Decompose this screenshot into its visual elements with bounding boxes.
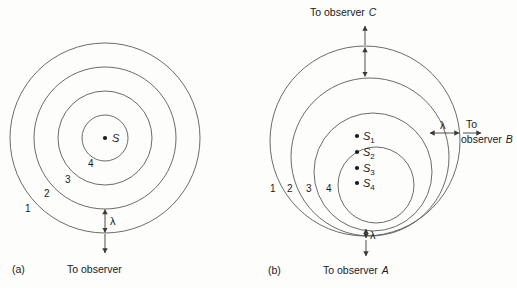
wavefront-label-2-b: 2 bbox=[287, 183, 293, 194]
source-dot-4-b bbox=[355, 181, 359, 185]
observer-label-a: To observer bbox=[67, 263, 122, 275]
wavefront-label-1-a: 1 bbox=[25, 203, 31, 214]
source-label-a: S bbox=[112, 132, 120, 144]
panel-a: S 1 2 3 4 λ To observer (a) bbox=[10, 43, 200, 275]
wavefront-label-1-b: 1 bbox=[270, 183, 276, 194]
wavelength-label-bottom-b: λ bbox=[370, 229, 376, 241]
doppler-diagram: S 1 2 3 4 λ To observer (a) S1 S2 bbox=[0, 0, 517, 288]
panel-caption-a: (a) bbox=[12, 263, 25, 275]
observer-b-label-line2: observerB bbox=[461, 133, 513, 145]
source-label-1-b: S1 bbox=[363, 130, 375, 145]
wavefront-label-2-a: 2 bbox=[44, 188, 50, 199]
source-label-2-b: S2 bbox=[363, 146, 375, 161]
wavefront-label-4-b: 4 bbox=[326, 183, 332, 194]
source-label-4-b: S4 bbox=[363, 177, 375, 192]
observer-b-label-line1: To bbox=[466, 118, 477, 130]
wavefront-label-4-a: 4 bbox=[88, 158, 94, 169]
source-label-3-b: S3 bbox=[363, 162, 375, 177]
observer-a-label: To observerA bbox=[323, 264, 389, 276]
source-dot-1-b bbox=[355, 134, 359, 138]
panel-b: S1 S2 S3 S4 1 2 3 4 To observerC λ To ob… bbox=[268, 6, 513, 276]
source-dot-2-b bbox=[355, 150, 359, 154]
panel-caption-b: (b) bbox=[268, 264, 281, 276]
figure-canvas: S 1 2 3 4 λ To observer (a) S1 S2 bbox=[0, 0, 517, 288]
source-dot-a bbox=[103, 136, 107, 140]
source-dot-3-b bbox=[355, 166, 359, 170]
wavelength-label-a: λ bbox=[110, 215, 116, 227]
wavelength-label-right-b: λ bbox=[440, 119, 446, 131]
wavefront-label-3-a: 3 bbox=[65, 174, 71, 185]
wavefront-label-3-b: 3 bbox=[306, 183, 312, 194]
observer-c-label: To observerC bbox=[310, 6, 377, 18]
wavefront-circle-4-b bbox=[338, 147, 414, 223]
